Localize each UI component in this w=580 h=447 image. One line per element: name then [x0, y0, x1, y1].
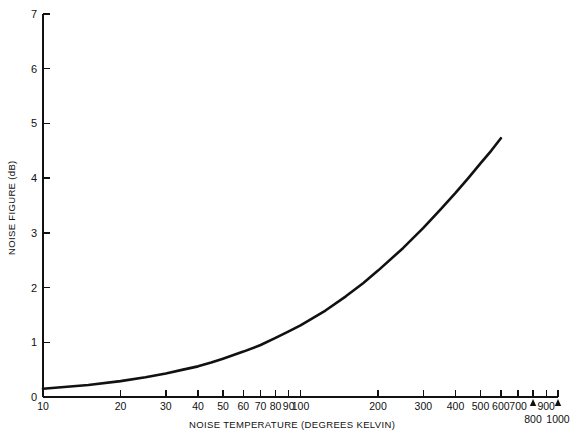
x-ticklabel-60: 60	[238, 400, 250, 412]
y-ticklabel-7: 7	[31, 8, 37, 20]
figure-container: 01234567 1020304050607080901002003004005…	[0, 0, 580, 447]
y-ticklabel-3: 3	[31, 227, 37, 239]
x-ticklabel-20: 20	[115, 400, 127, 412]
x-ticklabel-300: 300	[415, 400, 433, 412]
x-ticklabel-80: 80	[270, 400, 282, 412]
y-ticklabel-2: 2	[31, 282, 37, 294]
x-ticklabel-40: 40	[192, 400, 204, 412]
x-ticklabel-10: 10	[37, 400, 49, 412]
y-ticklabel-group: 01234567	[31, 8, 37, 403]
x-ticklabel-200: 200	[369, 400, 387, 412]
x-ticklabel-400: 400	[447, 400, 465, 412]
noise-figure-chart: 01234567 1020304050607080901002003004005…	[0, 0, 580, 447]
x-tick-group	[43, 390, 558, 397]
x-axis-title: NOISE TEMPERATURE (DEGREES KELVIN)	[189, 419, 395, 430]
x-ticklabel-600: 600	[492, 400, 510, 412]
y-axis-title: NOISE FIGURE (dB)	[6, 160, 17, 255]
axis-frame	[43, 14, 558, 397]
x-ticklabel-800: 800	[524, 413, 542, 425]
data-curve-noise-figure	[43, 138, 501, 389]
x-ticklabel-50: 50	[217, 400, 229, 412]
y-ticklabel-0: 0	[31, 391, 37, 403]
x-ticklabel-500: 500	[472, 400, 490, 412]
x-caret-1000	[555, 399, 561, 406]
y-ticklabel-6: 6	[31, 63, 37, 75]
y-ticklabel-5: 5	[31, 117, 37, 129]
x-ticklabel-900: 900	[537, 400, 555, 412]
x-ticklabel-700: 700	[509, 400, 527, 412]
x-ticklabel-30: 30	[160, 400, 172, 412]
x-ticklabel-70: 70	[255, 400, 267, 412]
x-caret-800	[530, 399, 536, 406]
y-tick-group	[43, 14, 50, 397]
x-ticklabel-1000: 1000	[546, 413, 570, 425]
y-ticklabel-4: 4	[31, 172, 37, 184]
y-ticklabel-1: 1	[31, 336, 37, 348]
x-ticklabel-100: 100	[292, 400, 310, 412]
